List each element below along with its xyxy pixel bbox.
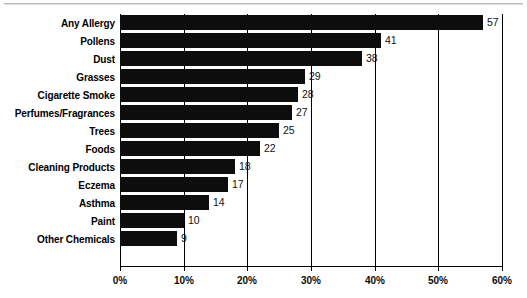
category-label-row: Any Allergy xyxy=(0,14,115,32)
bar-row: 29 xyxy=(120,68,502,86)
bar-row: 25 xyxy=(120,122,502,140)
x-tick-label: 20% xyxy=(237,275,257,287)
plot-area: 5741382928272522181714109 xyxy=(120,14,502,266)
category-label: Pollens xyxy=(80,36,115,47)
category-label-row: Paint xyxy=(0,212,115,230)
x-tick-label: 50% xyxy=(428,275,448,287)
bar-row: 38 xyxy=(120,50,502,68)
x-tick-label: 40% xyxy=(365,275,385,287)
category-label-row: Perfumes/Fragrances xyxy=(0,104,115,122)
category-label: Grasses xyxy=(76,72,115,83)
bar xyxy=(120,123,279,138)
bar-value-label: 28 xyxy=(302,88,314,100)
category-label-row: Foods xyxy=(0,140,115,158)
category-label-row: Grasses xyxy=(0,68,115,86)
bar-value-label: 41 xyxy=(385,34,397,46)
gridline-60pct xyxy=(502,14,503,266)
category-label-row: Dust xyxy=(0,50,115,68)
category-label: Other Chemicals xyxy=(37,234,115,245)
bar-value-label: 9 xyxy=(181,232,187,244)
x-tick-mark xyxy=(438,266,439,271)
bar xyxy=(120,141,260,156)
bar xyxy=(120,15,483,30)
bar xyxy=(120,87,298,102)
bar-value-label: 10 xyxy=(188,214,200,226)
page-top-rule-shadow xyxy=(4,4,523,5)
bar-value-label: 25 xyxy=(283,124,295,136)
x-tick-label: 60% xyxy=(492,275,512,287)
category-axis: Any AllergyPollensDustGrassesCigarette S… xyxy=(0,14,115,266)
x-tick-label: 10% xyxy=(174,275,194,287)
bar-row: 22 xyxy=(120,140,502,158)
bar xyxy=(120,159,235,174)
bar-value-label: 18 xyxy=(239,160,251,172)
category-label-row: Asthma xyxy=(0,194,115,212)
x-tick-mark xyxy=(375,266,376,271)
bar-value-label: 29 xyxy=(309,70,321,82)
bar-row: 17 xyxy=(120,176,502,194)
category-label: Trees xyxy=(89,126,115,137)
bar-row: 18 xyxy=(120,158,502,176)
bar xyxy=(120,213,184,228)
category-label: Any Allergy xyxy=(61,18,115,29)
bar-value-label: 17 xyxy=(232,178,244,190)
category-label: Perfumes/Fragrances xyxy=(15,108,115,119)
bar-row: 10 xyxy=(120,212,502,230)
category-label-row: Eczema xyxy=(0,176,115,194)
x-tick-mark xyxy=(502,266,503,271)
category-label-row: Cleaning Products xyxy=(0,158,115,176)
bar xyxy=(120,69,305,84)
x-tick-mark xyxy=(184,266,185,271)
bar-value-label: 57 xyxy=(487,16,499,28)
category-label-row: Pollens xyxy=(0,32,115,50)
bar-value-label: 22 xyxy=(264,142,276,154)
category-label: Eczema xyxy=(78,180,115,191)
x-tick-label: 30% xyxy=(301,275,321,287)
category-label: Cigarette Smoke xyxy=(38,90,115,101)
bar-row: 27 xyxy=(120,104,502,122)
category-label: Paint xyxy=(91,216,115,227)
category-label-row: Cigarette Smoke xyxy=(0,86,115,104)
bar xyxy=(120,195,209,210)
bar-row: 28 xyxy=(120,86,502,104)
bar-value-label: 38 xyxy=(366,52,378,64)
bar-value-label: 14 xyxy=(213,196,225,208)
x-tick-label: 0% xyxy=(113,275,127,287)
x-tick-mark xyxy=(311,266,312,271)
bar xyxy=(120,231,177,246)
category-label: Asthma xyxy=(79,198,115,209)
bar xyxy=(120,51,362,66)
bar-row: 57 xyxy=(120,14,502,32)
category-label: Cleaning Products xyxy=(28,162,115,173)
category-label-row: Trees xyxy=(0,122,115,140)
x-tick-mark xyxy=(120,266,121,271)
bar-row: 9 xyxy=(120,230,502,248)
x-tick-mark xyxy=(247,266,248,271)
category-label: Foods xyxy=(86,144,116,155)
bar xyxy=(120,105,292,120)
bar-value-label: 27 xyxy=(296,106,308,118)
category-label-row: Other Chemicals xyxy=(0,230,115,248)
bar xyxy=(120,33,381,48)
bar-row: 14 xyxy=(120,194,502,212)
bar xyxy=(120,177,228,192)
category-label: Dust xyxy=(93,54,115,65)
bar-chart: Any AllergyPollensDustGrassesCigarette S… xyxy=(0,0,527,298)
bar-row: 41 xyxy=(120,32,502,50)
